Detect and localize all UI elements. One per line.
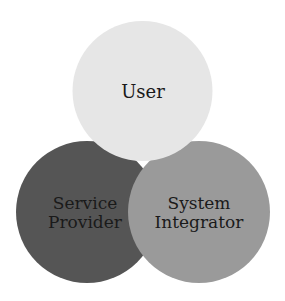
diagram-page: { "diagram": { "type": "venn", "circles"… [0,0,285,301]
label-service-provider-line-2: Provider [48,212,123,232]
label-system-integrator-line-2: Integrator [155,212,245,232]
label-user: User [121,81,165,102]
venn-diagram: User Service Provider System Integrator [0,0,285,301]
label-system-integrator-line-1: System [168,193,231,213]
label-service-provider-line-1: Service [53,193,117,213]
